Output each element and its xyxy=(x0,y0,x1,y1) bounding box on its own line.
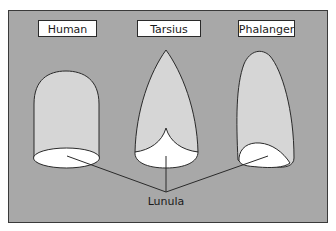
label-tarsius: Tarsius xyxy=(138,21,201,37)
label-human-text: Human xyxy=(48,23,88,36)
label-human: Human xyxy=(39,21,97,37)
label-phalanger-text: Phalanger xyxy=(239,23,295,36)
nail-diagram: Human Tarsius Phalanger Lunula xyxy=(0,0,336,231)
label-tarsius-text: Tarsius xyxy=(149,23,188,36)
label-phalanger: Phalanger xyxy=(239,21,295,37)
label-lunula: Lunula xyxy=(148,195,185,208)
human-lunula xyxy=(34,148,100,168)
human-nail xyxy=(34,71,100,168)
